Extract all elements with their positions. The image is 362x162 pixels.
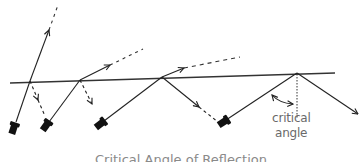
flashlight-icon bbox=[39, 118, 54, 134]
beam-1 bbox=[7, 5, 58, 135]
beam-2 bbox=[39, 49, 143, 133]
flashlight-icon bbox=[93, 116, 109, 131]
diagram-caption: Critical Angle of Reflection bbox=[0, 152, 362, 162]
angle-arc-icon bbox=[272, 95, 293, 104]
beam-3 bbox=[93, 57, 240, 131]
critical-angle-label-line1: critical bbox=[272, 111, 311, 125]
critical-angle-diagram bbox=[0, 0, 362, 162]
flashlight-icon bbox=[216, 114, 232, 129]
surface-line bbox=[10, 73, 335, 83]
flashlight-icon bbox=[7, 121, 20, 136]
critical-angle-label-line2: angle bbox=[275, 126, 307, 140]
